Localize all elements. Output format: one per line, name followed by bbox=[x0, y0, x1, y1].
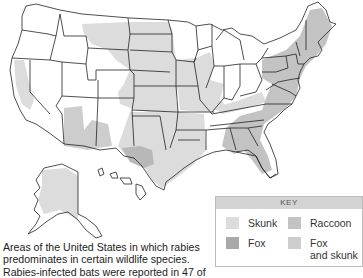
fox-and-skunk-region-texas bbox=[122, 146, 154, 168]
key-label-raccoon: Raccoon bbox=[310, 217, 351, 229]
map-key: KEY Skunk Raccoon Fox Fox and skunk bbox=[215, 196, 363, 267]
fox-region-alaska bbox=[38, 168, 78, 220]
raccoon-swatch bbox=[288, 217, 301, 229]
fox-and-skunk-region-southwest bbox=[64, 106, 112, 150]
key-item-skunk: Skunk bbox=[226, 217, 277, 229]
map-caption: Areas of the United States in which rabi… bbox=[3, 241, 213, 278]
key-item-raccoon: Raccoon bbox=[288, 217, 351, 229]
key-item-fox: Fox bbox=[226, 237, 266, 249]
key-title: KEY bbox=[216, 197, 362, 209]
key-label-skunk: Skunk bbox=[248, 217, 277, 229]
key-item-fox-and-skunk: Fox and skunk bbox=[288, 237, 358, 261]
skunk-region-plains bbox=[82, 22, 180, 112]
fox-swatch bbox=[226, 237, 239, 249]
fox-and-skunk-swatch bbox=[288, 237, 301, 249]
hawaii-outline bbox=[98, 168, 146, 200]
skunk-swatch bbox=[226, 217, 239, 229]
key-label-fox-and-skunk: Fox and skunk bbox=[310, 237, 358, 261]
key-label-fox: Fox bbox=[248, 237, 266, 249]
